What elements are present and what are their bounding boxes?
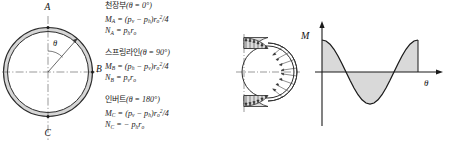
invert-moment-symbol: M xyxy=(105,108,112,117)
invert-axial-equation: NC = − phro xyxy=(105,120,169,132)
circular-ring-section xyxy=(2,16,98,140)
invert-moment-expr: = (p xyxy=(116,108,132,117)
spring-axial-r-sub: o xyxy=(133,77,136,83)
crown-axial-equation: NA = phro xyxy=(105,26,169,38)
ring-label-invert: C xyxy=(45,128,51,138)
crown-moment-expr: = (p xyxy=(115,14,131,23)
node-dot-spring xyxy=(91,71,94,74)
radial-pressure-distribution xyxy=(236,34,300,112)
crown-heading-condition: (θ = 0°) xyxy=(126,1,152,10)
invert-heading: 인버트(θ = 180°) xyxy=(105,95,169,106)
invert-moment-equation: MC = (pv − ph)ro2/4 xyxy=(105,106,169,121)
moment-axis-label-theta: θ xyxy=(424,78,428,88)
crown-axial-expr: = p xyxy=(114,26,128,35)
spring-moment-minus: − p xyxy=(134,61,148,70)
crown-moment-div: /4 xyxy=(162,14,168,23)
spring-line-formula-block: 스프링라인(θ = 90°) MB = (ph − pv)ro2/4 NB = … xyxy=(105,48,170,85)
spring-moment-div: /4 xyxy=(162,61,168,70)
ring-label-theta: θ xyxy=(53,38,57,48)
node-dot-crown xyxy=(47,26,50,29)
invert-heading-condition: (θ = 180°) xyxy=(126,95,160,104)
spring-moment-equation: MB = (ph − pv)ro2/4 xyxy=(105,59,170,74)
invert-formula-block: 인버트(θ = 180°) MC = (pv − ph)ro2/4 NC = −… xyxy=(105,95,169,132)
spring-heading-condition: (θ = 90°) xyxy=(140,48,170,57)
invert-axial-r-sub: o xyxy=(141,124,144,130)
invert-moment-div: /4 xyxy=(162,108,168,117)
invert-moment-minus: − p xyxy=(134,108,148,117)
crown-moment-equation: MA = (pv − ph)ro2/4 xyxy=(105,12,169,27)
crown-formula-block: 천장부(θ = 0°) MA = (pv − ph)ro2/4 NA = phr… xyxy=(105,1,169,38)
spring-heading-kr: 스프링라인 xyxy=(105,48,140,57)
ring-label-spring: B xyxy=(96,64,102,74)
technical-figure xyxy=(0,0,451,147)
crown-moment-minus: − p xyxy=(134,14,148,23)
spring-axial-equation: NB = pvro xyxy=(105,73,170,85)
invert-heading-kr: 인버트 xyxy=(105,95,126,104)
crown-heading: 천장부(θ = 0°) xyxy=(105,1,169,12)
spring-moment-expr: = (p xyxy=(115,61,131,70)
moment-distribution-chart xyxy=(315,21,443,126)
spring-axial-expr: = p xyxy=(114,73,128,82)
moment-y-axis-arrowhead xyxy=(319,21,324,28)
crown-axial-r-sub: o xyxy=(134,30,137,36)
node-dot-invert xyxy=(47,115,50,118)
crown-heading-kr: 천장부 xyxy=(105,1,126,10)
ring-label-crown: A xyxy=(45,2,51,12)
spring-moment-symbol: M xyxy=(105,61,112,70)
moment-axis-label-m: M xyxy=(301,30,309,41)
crown-moment-symbol: M xyxy=(105,14,112,23)
spring-heading: 스프링라인(θ = 90°) xyxy=(105,48,170,59)
moment-x-axis-arrowhead xyxy=(436,69,443,74)
invert-axial-expr: = − p xyxy=(114,120,135,129)
